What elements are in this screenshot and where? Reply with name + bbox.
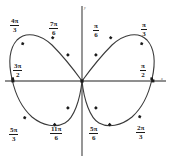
origin-marker xyxy=(80,79,83,82)
angle-label-numerator: 7π xyxy=(49,20,58,29)
angle-label-five-pi-over-3: 5π 3 xyxy=(9,126,18,143)
curve-marker xyxy=(66,106,70,110)
angle-label-pi-over-2: π 2 xyxy=(140,62,146,79)
polar-rose-figure: π 6 π 3 π 2 2π 3 5π 6 7π 6 xyxy=(0,0,169,160)
curve-marker xyxy=(94,53,98,57)
angle-label-numerator: π xyxy=(93,22,99,31)
y-axis-label: y xyxy=(84,5,86,10)
angle-label-numerator: π xyxy=(141,21,147,30)
curve-marker xyxy=(23,116,26,119)
angle-label-denominator: 3 xyxy=(10,26,19,34)
angle-label-numerator: 5π xyxy=(9,126,18,135)
angle-label-denominator: 3 xyxy=(9,135,18,143)
angle-label-numerator: 11π xyxy=(50,125,62,134)
angle-label-four-pi-over-3: 4π 3 xyxy=(10,17,19,34)
angle-label-denominator: 6 xyxy=(89,134,98,142)
angle-label-denominator: 6 xyxy=(93,31,99,39)
curve-marker xyxy=(94,106,98,110)
angle-label-denominator: 2 xyxy=(13,71,22,79)
curve-marker xyxy=(21,42,24,45)
left-lobe-path xyxy=(10,35,82,126)
angle-label-five-pi-over-6: 5π 6 xyxy=(89,125,98,142)
curve-marker xyxy=(140,42,143,45)
angle-label-two-pi-over-3: 2π 3 xyxy=(136,124,145,141)
angle-label-denominator: 6 xyxy=(49,29,58,37)
angle-label-pi-over-3: π 3 xyxy=(141,21,147,38)
axis-tick-right xyxy=(151,79,154,82)
angle-label-pi-over-6: π 6 xyxy=(93,22,99,39)
angle-label-denominator: 6 xyxy=(50,134,62,142)
curve-marker xyxy=(109,36,113,40)
angle-label-denominator: 3 xyxy=(136,133,145,141)
curve-marker xyxy=(138,115,141,118)
angle-label-three-pi-over-2: 3π 2 xyxy=(13,62,22,79)
angle-label-seven-pi-over-6: 7π 6 xyxy=(49,20,58,37)
angle-label-numerator: 5π xyxy=(89,125,98,134)
angle-label-denominator: 2 xyxy=(140,71,146,79)
angle-label-numerator: 4π xyxy=(10,17,19,26)
axis-tick-left xyxy=(11,79,14,82)
angle-label-eleven-pi-over-6: 11π 6 xyxy=(50,125,62,142)
angle-label-denominator: 3 xyxy=(141,30,147,38)
angle-label-numerator: 2π xyxy=(136,124,145,133)
right-lobe-path xyxy=(82,35,154,126)
angle-label-numerator: π xyxy=(140,62,146,71)
x-axis-label: x xyxy=(161,76,163,81)
curve-marker xyxy=(66,53,70,57)
angle-label-numerator: 3π xyxy=(13,62,22,71)
